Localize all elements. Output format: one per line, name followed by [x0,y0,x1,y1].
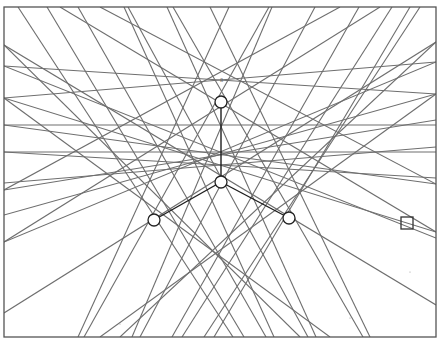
ray-line [60,7,436,232]
ray-lines [4,7,436,337]
node-circle-top [215,96,227,108]
node-label: 8 [220,77,223,83]
speck-dot [409,271,410,272]
node-circle-left [148,214,160,226]
speck-dot [349,317,350,318]
node-circle-center [215,176,227,188]
speck-dot [119,323,120,324]
ray-line [4,98,330,337]
link-center-right [221,182,289,218]
ray-line [128,7,308,337]
ray-line [18,7,233,337]
node-circle-right [283,212,295,224]
ray-line [120,42,436,337]
line-envelope-diagram: 8 [0,0,440,341]
ray-line [182,7,392,337]
ray-line [140,7,315,337]
ray-line [100,7,436,184]
diagram-frame [4,7,436,337]
link-center-left [154,182,221,220]
